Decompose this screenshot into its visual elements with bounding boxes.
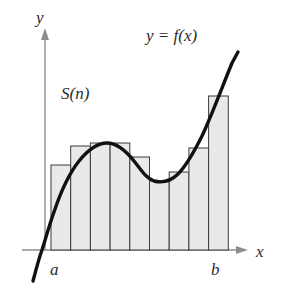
riemann-sum-figure: y x a b S(n) y = f(x) [0, 0, 282, 284]
y-axis-label: y [34, 8, 44, 27]
riemann-sum-diagram: y x a b S(n) y = f(x) [0, 0, 282, 284]
riemann-rectangle [189, 148, 209, 250]
riemann-rectangle [90, 143, 110, 250]
riemann-rectangle [209, 96, 229, 250]
riemann-rectangle [150, 181, 170, 250]
lower-bound-label: a [50, 260, 59, 279]
function-equation-label: y = f(x) [144, 26, 197, 45]
sum-notation-label: S(n) [61, 84, 90, 103]
x-axis-label: x [255, 242, 264, 261]
y-axis-arrowhead [41, 28, 49, 40]
riemann-rectangle [110, 143, 130, 250]
upper-bound-label: b [211, 260, 220, 279]
riemann-rectangle [169, 172, 189, 250]
x-axis-arrowhead [236, 246, 248, 254]
riemann-rectangles-group [51, 96, 228, 250]
